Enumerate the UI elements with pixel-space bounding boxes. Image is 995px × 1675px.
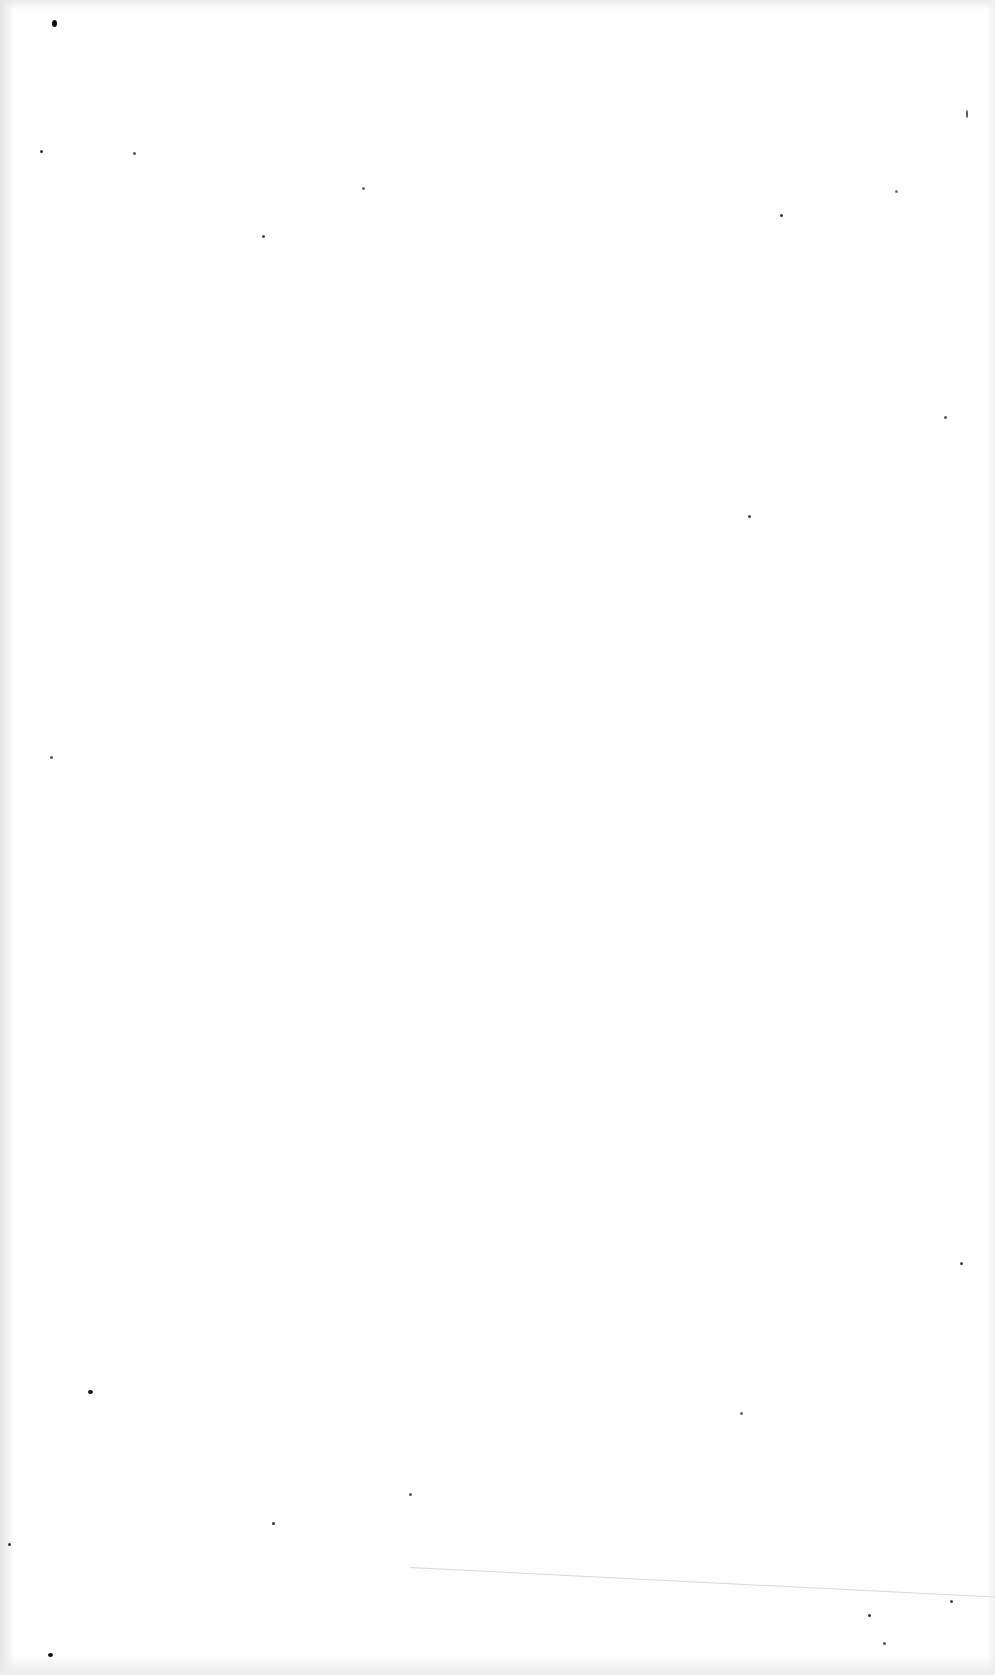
dust-speck [883,1642,886,1645]
dust-speck [8,1543,11,1546]
dust-speck [88,1390,93,1394]
dust-speck [50,756,53,759]
dust-speck [895,190,898,193]
dust-speck [868,1614,871,1617]
dust-speck [409,1493,412,1496]
page-edge-left [0,0,14,1675]
dust-speck [944,416,947,419]
dust-speck [362,187,365,190]
dust-speck [740,1412,743,1415]
dust-speck [48,1653,53,1657]
dust-speck [272,1522,275,1525]
dust-speck [780,214,783,217]
dust-speck [950,1600,953,1603]
dust-speck [960,1262,963,1265]
page-edge-right [987,0,995,1675]
dust-speck [966,110,968,118]
dust-speck [133,152,136,155]
dust-speck [52,20,57,27]
dust-speck [262,235,265,238]
page-edge-top [0,0,995,10]
dust-speck [748,515,751,518]
dust-speck [40,150,43,153]
scanned-page [0,0,995,1675]
page-edge-bottom [0,1655,995,1675]
scan-artifact-line [410,1567,994,1598]
